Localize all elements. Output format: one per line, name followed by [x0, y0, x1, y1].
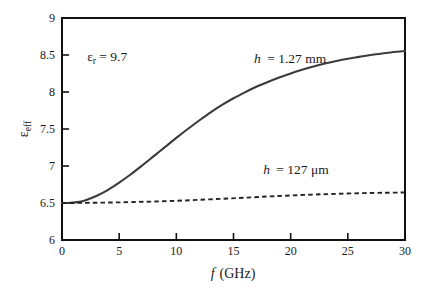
x-tick-label-10: 10 — [170, 244, 182, 258]
y-tick-label-9: 9 — [49, 11, 55, 25]
y-tick-label-6: 6 — [49, 233, 55, 247]
x-tick-label-25: 25 — [342, 244, 354, 258]
y-tick-label-7: 7 — [49, 159, 55, 173]
x-tick-label-0: 0 — [59, 244, 65, 258]
data-series-thin-substrate — [62, 192, 405, 203]
y-axis-title: εeff — [16, 120, 33, 137]
annotation-curve-label-thin-substrate: h = 127 μm — [263, 162, 329, 177]
x-tick-label-5: 5 — [116, 244, 122, 258]
x-axis-symbol: f — [211, 266, 217, 281]
annotation-substrate-permittivity: εr = 9.7 — [87, 49, 127, 66]
y-axis-subscript: eff — [23, 120, 33, 131]
y-axis-tick-labels: 66.577.588.59 — [40, 11, 55, 247]
permittivity-vs-frequency-chart: 051015202530 66.577.588.59 f(GHz) εeff ε… — [0, 0, 436, 295]
y-axis-ticks — [62, 18, 69, 240]
x-axis-ticks — [62, 233, 405, 240]
x-tick-label-30: 30 — [399, 244, 411, 258]
y-tick-label-8-5: 8.5 — [40, 48, 55, 62]
data-series-thick-substrate — [62, 51, 405, 203]
x-axis-title: f(GHz) — [211, 266, 256, 282]
annotation-curve-label-thick-substrate: h = 1.27 mm — [254, 51, 327, 66]
y-tick-label-7-5: 7.5 — [40, 122, 55, 136]
y-tick-label-8: 8 — [49, 85, 55, 99]
x-tick-label-15: 15 — [228, 244, 240, 258]
chart-figure: 051015202530 66.577.588.59 f(GHz) εeff ε… — [0, 0, 436, 295]
x-axis-unit: (GHz) — [220, 266, 256, 282]
x-tick-label-20: 20 — [285, 244, 297, 258]
y-tick-label-6-5: 6.5 — [40, 196, 55, 210]
x-axis-tick-labels: 051015202530 — [59, 244, 411, 258]
